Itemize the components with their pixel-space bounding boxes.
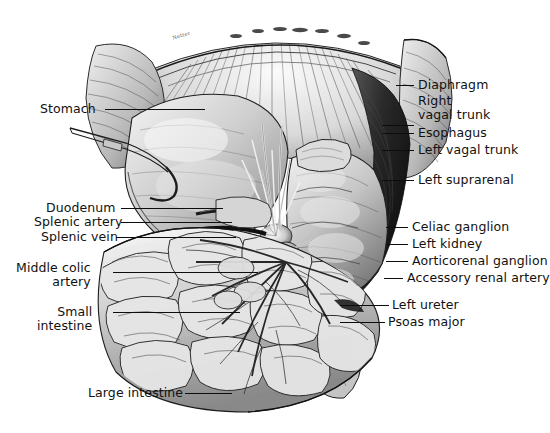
label-splenic-vein: Splenic vein [41,230,118,244]
leader-line-small-intestine [113,312,240,313]
leader-line-middle-colic-artery [113,272,258,273]
leader-line-psoas-major [340,322,385,323]
duodenum-region [216,197,272,228]
label-accessory-renal-artery: Accessory renal artery [407,271,550,285]
leader-line-left-kidney [386,244,408,245]
leader-line-accessory-renal-artery [384,278,403,279]
label-left-ureter: Left ureter [392,298,459,312]
label-stomach: Stomach [40,102,96,116]
leader-line-aorticorenal-ganglion [386,261,408,262]
leader-line-celiac-ganglion [386,227,408,228]
leader-line-diaphragm [396,85,414,86]
leader-line-splenic-vein [116,237,236,238]
label-left-suprarenal: Left suprarenal [418,173,514,187]
label-psoas-major: Psoas major [388,315,465,329]
label-left-vagal-trunk: Left vagal trunk [418,143,518,157]
label-left-kidney: Left kidney [412,237,482,251]
label-middle-colic-artery: Middle colic artery [16,261,91,289]
leader-line-splenic-artery [121,222,232,223]
leader-line-stomach [105,109,205,110]
leader-line-left-suprarenal [382,180,414,181]
leader-line-large-intestine [185,393,232,394]
label-duodenum: Duodenum [46,201,116,215]
leader-line-left-vagal-trunk [382,150,414,151]
leader-line-esophagus [382,133,414,134]
leader-line-left-ureter [340,305,389,306]
label-celiac-ganglion: Celiac ganglion [412,220,509,234]
label-small-intestine: Small intestine [37,305,92,333]
leader-line-right-vagal-trunk [382,125,414,126]
label-aorticorenal-ganglion: Aorticorenal ganglion [412,254,548,268]
label-large-intestine: Large intestine [88,386,183,400]
anatomical-figure: Netter DiaphragmRight vagal trunkEsophag… [0,0,550,433]
label-splenic-artery: Splenic artery [34,215,123,229]
label-esophagus: Esophagus [418,126,487,140]
leader-line-duodenum [121,208,223,209]
label-right-vagal-trunk: Right vagal trunk [418,94,490,122]
label-diaphragm: Diaphragm [418,78,488,92]
